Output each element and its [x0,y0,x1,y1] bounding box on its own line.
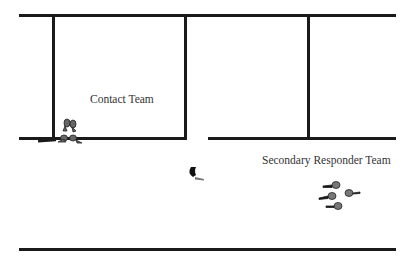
secondary-team-label: Secondary Responder Team [262,154,391,166]
middle-room-wall [184,14,187,138]
top-wall [19,14,396,17]
lone-figure-icon [185,163,209,185]
contact-team-figures-icon [54,114,88,148]
lower-right-wall [208,137,396,140]
contact-team-label: Contact Team [90,93,154,105]
bottom-wall [19,248,396,251]
right-room-wall [307,14,310,139]
secondary-team-figures-icon [316,178,362,214]
